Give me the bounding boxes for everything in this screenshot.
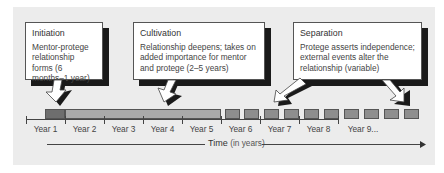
time-arrowhead-icon xyxy=(0,0,444,173)
